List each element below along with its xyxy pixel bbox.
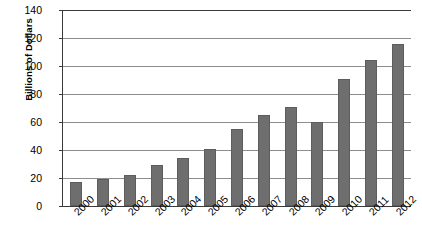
y-tick-label: 120 <box>0 33 42 44</box>
bar-slot <box>331 10 358 206</box>
x-axis-ticks: 2000200120022003200420052006200720082009… <box>62 208 410 252</box>
plot-area: 020406080100120140 <box>62 10 410 206</box>
bar-slot <box>117 10 144 206</box>
y-tick-mark <box>59 206 63 207</box>
bar-slot <box>143 10 170 206</box>
y-tick-label: 40 <box>0 145 42 156</box>
bar-chart: Billions of Dollars 020406080100120140 2… <box>0 0 422 252</box>
bar-slot <box>63 10 90 206</box>
bar-slot <box>90 10 117 206</box>
bar-slot <box>304 10 331 206</box>
bar-slot <box>357 10 384 206</box>
y-tick-label: 100 <box>0 61 42 72</box>
bar-slot <box>224 10 251 206</box>
bar-slot <box>277 10 304 206</box>
bar-slot <box>250 10 277 206</box>
y-tick-label: 80 <box>0 89 42 100</box>
y-tick-label: 20 <box>0 173 42 184</box>
bar-slot <box>384 10 411 206</box>
y-tick-label: 0 <box>0 201 42 212</box>
bar-series <box>63 10 411 206</box>
y-tick-label: 60 <box>0 117 42 128</box>
y-tick-label: 140 <box>0 5 42 16</box>
bar-slot <box>197 10 224 206</box>
bar-slot <box>170 10 197 206</box>
